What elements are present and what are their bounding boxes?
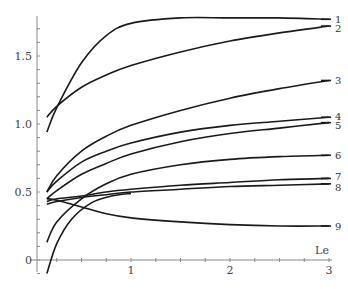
curves: [47, 18, 331, 274]
x-tick-label: 3: [326, 264, 333, 277]
y-tick-label: 0: [25, 254, 32, 267]
line-chart: 00.51.01.5123Le 123456789: [0, 0, 348, 289]
curve-label-7: 7: [335, 171, 341, 182]
x-axis-label: Le: [315, 244, 329, 257]
curve-label-6: 6: [335, 150, 341, 161]
x-tick-label: 2: [227, 264, 234, 277]
curve-label-8: 8: [335, 182, 341, 193]
curve-label-2: 2: [335, 23, 341, 34]
curve-label-5: 5: [335, 120, 341, 131]
curve-2: [47, 26, 329, 117]
curve-4: [47, 117, 329, 192]
curve-6: [47, 155, 329, 242]
curve-5: [47, 123, 329, 199]
x-tick-label: 1: [128, 264, 135, 277]
curve-labels: 123456789: [335, 14, 341, 232]
curve-7: [47, 178, 329, 201]
curve-label-9: 9: [335, 221, 341, 232]
curve-label-3: 3: [335, 75, 341, 86]
curve-extra: [47, 193, 131, 273]
curve-9: [47, 199, 329, 226]
y-tick-label: 0.5: [15, 186, 33, 199]
curve-1: [47, 18, 329, 133]
curve-3: [47, 80, 329, 192]
axes: 00.51.01.5123Le: [15, 16, 333, 277]
y-tick-label: 1.5: [15, 50, 33, 63]
y-tick-label: 1.0: [15, 118, 33, 131]
